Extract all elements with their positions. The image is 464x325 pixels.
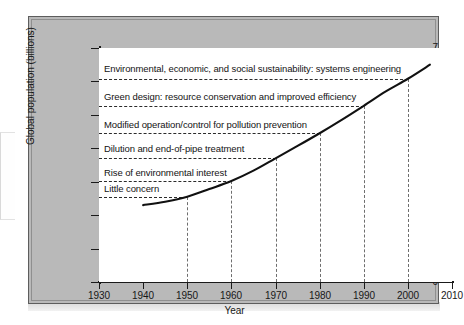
x-tick-label: 2010 (429, 290, 464, 301)
annotation-line-modified-operation (99, 133, 320, 134)
chart-screenshot: 7 6 5 4 3 2 1 0 1930 1940 1950 1960 197 (0, 0, 464, 325)
annotation-label-little-concern: Little concern (104, 183, 159, 194)
gridline-1960 (231, 181, 232, 282)
annotation-line-little-concern (99, 197, 187, 198)
annotation-label-green-design: Green design: resource conservation and … (104, 91, 356, 102)
annotation-line-sustainability (99, 79, 408, 80)
gridline-1970 (276, 158, 277, 282)
x-tick-label: 2000 (385, 290, 431, 301)
x-tick-label: 1970 (253, 290, 299, 301)
annotation-label-dilution: Dilution and end-of-pipe treatment (104, 143, 244, 154)
x-tick-label: 1990 (341, 290, 387, 301)
scan-artifact-left (0, 132, 15, 220)
annotation-line-green-design (99, 106, 364, 107)
gridline-1990 (364, 106, 365, 282)
plot-area: Environmental, economic, and social sust… (99, 48, 452, 282)
x-tick-label: 1930 (76, 290, 122, 301)
gridline-1950 (187, 197, 188, 282)
gridline-1980 (320, 133, 321, 282)
x-axis-title: Year (29, 305, 440, 316)
x-tick-label: 1950 (164, 290, 210, 301)
gridline-2000 (408, 79, 409, 282)
x-tick-label: 1980 (297, 290, 343, 301)
annotation-label-sustainability: Environmental, economic, and social sust… (104, 63, 401, 74)
x-tick-label: 1940 (120, 290, 166, 301)
annotation-label-modified-operation: Modified operation/control for pollution… (104, 119, 307, 130)
figure-panel: 7 6 5 4 3 2 1 0 1930 1940 1950 1960 197 (28, 16, 439, 304)
annotation-line-rise-of-interest (99, 181, 231, 182)
annotation-label-rise-of-interest: Rise of environmental interest (104, 167, 227, 178)
x-tick-label: 1960 (208, 290, 254, 301)
annotation-line-dilution (99, 158, 276, 159)
y-axis-title: Global population (billions) (25, 27, 36, 145)
